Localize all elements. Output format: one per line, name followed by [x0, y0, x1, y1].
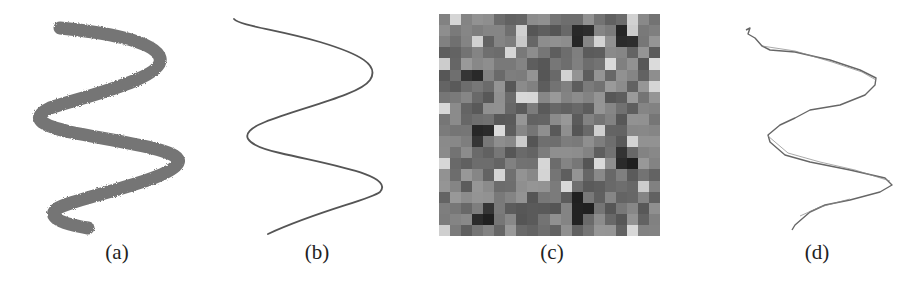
- grid-pixel: [494, 25, 505, 36]
- grid-pixel: [505, 81, 516, 92]
- grid-pixel: [538, 36, 549, 47]
- grid-pixel: [572, 47, 583, 58]
- grid-pixel: [527, 225, 538, 236]
- grid-pixel: [550, 58, 561, 69]
- grid-pixel: [583, 169, 594, 180]
- grid-pixel: [638, 125, 649, 136]
- grid-pixel: [472, 70, 483, 81]
- grid-pixel: [572, 25, 583, 36]
- grid-pixel: [616, 81, 627, 92]
- grid-pixel: [627, 169, 638, 180]
- grid-pixel: [572, 136, 583, 147]
- grid-pixel: [627, 158, 638, 169]
- grid-pixel: [494, 181, 505, 192]
- grid-pixel: [505, 158, 516, 169]
- grid-pixel: [649, 125, 660, 136]
- grid-pixel: [505, 25, 516, 36]
- grid-pixel: [461, 70, 472, 81]
- grid-pixel: [450, 103, 461, 114]
- grid-pixel: [516, 114, 527, 125]
- grid-pixel: [649, 136, 660, 147]
- grid-pixel: [505, 214, 516, 225]
- grid-pixel: [638, 58, 649, 69]
- grid-pixel: [550, 203, 561, 214]
- grid-pixel: [472, 58, 483, 69]
- grid-pixel: [594, 181, 605, 192]
- grid-pixel: [527, 203, 538, 214]
- grid-pixel: [538, 114, 549, 125]
- grid-pixel: [649, 158, 660, 169]
- grid-pixel: [483, 136, 494, 147]
- grid-pixel: [461, 192, 472, 203]
- grid-pixel: [461, 103, 472, 114]
- grid-pixel: [638, 81, 649, 92]
- grid-pixel: [516, 81, 527, 92]
- grid-pixel: [649, 58, 660, 69]
- grid-pixel: [605, 158, 616, 169]
- grid-pixel: [461, 47, 472, 58]
- grid-pixel: [538, 214, 549, 225]
- grid-pixel: [538, 136, 549, 147]
- grid-pixel: [516, 181, 527, 192]
- grid-pixel: [605, 47, 616, 58]
- grid-pixel: [583, 70, 594, 81]
- grid-pixel: [583, 203, 594, 214]
- grid-pixel: [572, 214, 583, 225]
- grid-pixel: [516, 169, 527, 180]
- grid-pixel: [538, 158, 549, 169]
- grid-pixel: [561, 214, 572, 225]
- grid-pixel: [561, 70, 572, 81]
- grid-pixel: [461, 136, 472, 147]
- grid-pixel: [561, 58, 572, 69]
- grid-pixel: [583, 81, 594, 92]
- grid-pixel: [616, 203, 627, 214]
- grid-pixel: [527, 169, 538, 180]
- grid-pixel: [605, 192, 616, 203]
- grid-pixel: [483, 192, 494, 203]
- grid-pixel: [527, 14, 538, 25]
- grid-pixel: [605, 203, 616, 214]
- grid-pixel: [638, 47, 649, 58]
- grid-pixel: [594, 169, 605, 180]
- grid-pixel: [550, 81, 561, 92]
- grid-pixel: [527, 114, 538, 125]
- grid-pixel: [594, 147, 605, 158]
- grid-pixel: [550, 70, 561, 81]
- grid-pixel: [439, 81, 450, 92]
- grid-pixel: [572, 114, 583, 125]
- grid-pixel: [538, 70, 549, 81]
- grid-pixel: [461, 158, 472, 169]
- grid-pixel: [538, 203, 549, 214]
- grid-pixel: [616, 58, 627, 69]
- grid-pixel: [627, 225, 638, 236]
- grid-pixel: [461, 25, 472, 36]
- grid-pixel: [439, 114, 450, 125]
- grid-pixel: [605, 36, 616, 47]
- grid-pixel: [538, 192, 549, 203]
- grid-pixel: [572, 58, 583, 69]
- grid-pixel: [472, 225, 483, 236]
- grid-pixel: [627, 47, 638, 58]
- grid-pixel: [461, 81, 472, 92]
- grid-pixel: [572, 147, 583, 158]
- grid-pixel: [527, 214, 538, 225]
- grid-pixel: [505, 192, 516, 203]
- grid-pixel: [649, 14, 660, 25]
- grid-pixel: [583, 225, 594, 236]
- grid-pixel: [494, 81, 505, 92]
- grid-pixel: [616, 36, 627, 47]
- grid-pixel: [594, 92, 605, 103]
- grid-pixel: [538, 25, 549, 36]
- grid-pixel: [483, 25, 494, 36]
- grid-pixel: [494, 214, 505, 225]
- grid-pixel: [605, 70, 616, 81]
- grid-pixel: [483, 214, 494, 225]
- grid-pixel: [649, 70, 660, 81]
- grid-pixel: [494, 36, 505, 47]
- grid-pixel: [594, 81, 605, 92]
- grid-pixel: [572, 192, 583, 203]
- grid-pixel: [572, 14, 583, 25]
- grid-pixel: [450, 47, 461, 58]
- grid-pixel: [616, 158, 627, 169]
- grid-pixel: [494, 14, 505, 25]
